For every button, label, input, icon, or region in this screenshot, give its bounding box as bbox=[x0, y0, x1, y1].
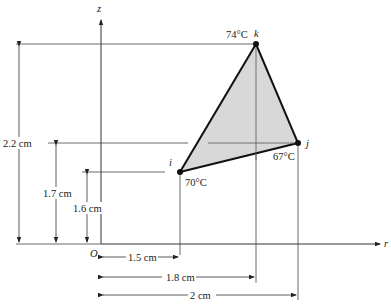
dim-1-6-label: 1.6 cm bbox=[73, 203, 102, 214]
dim-2-2-label: 2.2 cm bbox=[3, 138, 32, 149]
dim-2-label: 2 cm bbox=[190, 290, 211, 301]
triangle-element-diagram: z r O i j k 70°C 67°C 74°C 2.2 cm 1.7 cm… bbox=[0, 0, 391, 307]
node-j-temperature: 67°C bbox=[273, 151, 295, 162]
node-k-label: k bbox=[254, 28, 259, 39]
node-i-temperature: 70°C bbox=[185, 177, 207, 188]
node-k bbox=[253, 41, 259, 47]
dim-1-5-label: 1.5 cm bbox=[128, 252, 157, 263]
z-axis-label: z bbox=[96, 3, 101, 14]
node-j-label: j bbox=[304, 138, 309, 149]
dim-1-8-label: 1.8 cm bbox=[166, 272, 195, 283]
node-i bbox=[177, 169, 183, 175]
dim-1-7-label: 1.7 cm bbox=[43, 188, 72, 199]
node-i-label: i bbox=[169, 157, 172, 168]
r-axis-label: r bbox=[384, 238, 389, 249]
origin-label: O bbox=[90, 248, 98, 259]
node-j bbox=[295, 140, 301, 146]
node-k-temperature: 74°C bbox=[226, 29, 248, 40]
